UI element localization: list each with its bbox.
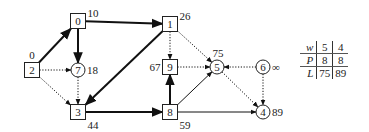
node-id-text: 3 bbox=[75, 106, 81, 118]
node-id-text: 7 bbox=[75, 64, 81, 76]
label-table: w 5 4 P 8 8 L 75 89 bbox=[300, 41, 348, 79]
node-value-label: 75 bbox=[213, 47, 225, 59]
table-cell: 4 bbox=[333, 41, 349, 54]
node-3: 344 bbox=[71, 105, 100, 131]
node-id-text: 4 bbox=[260, 106, 266, 118]
node-6: 6∞ bbox=[256, 60, 280, 74]
table-row-w: w 5 4 bbox=[300, 41, 348, 54]
edge-0-1 bbox=[86, 21, 163, 24]
node-value-label: 0 bbox=[29, 49, 35, 61]
node-value-label: 59 bbox=[180, 119, 192, 131]
table-cell: 5 bbox=[317, 41, 333, 54]
node-0: 010 bbox=[71, 7, 100, 29]
node-8: 859 bbox=[163, 105, 192, 131]
node-value-label: 10 bbox=[88, 7, 100, 19]
node-value-label: 26 bbox=[180, 10, 192, 22]
node-value-label: ∞ bbox=[272, 61, 280, 73]
edge-2-0 bbox=[39, 29, 71, 63]
node-id-text: 5 bbox=[214, 61, 220, 73]
node-id-text: 0 bbox=[75, 15, 81, 27]
table-cell: 89 bbox=[333, 67, 349, 80]
edge-1-5 bbox=[178, 31, 212, 62]
table-row-p: P 8 8 bbox=[300, 54, 348, 67]
table-cell: 8 bbox=[317, 54, 333, 67]
node-2: 20 bbox=[25, 49, 40, 78]
row-header: P bbox=[300, 54, 317, 67]
node-id-text: 6 bbox=[260, 61, 266, 73]
row-header: w bbox=[300, 41, 317, 54]
node-7: 718 bbox=[71, 63, 99, 77]
node-id-text: 8 bbox=[167, 106, 173, 118]
edge-5-4 bbox=[222, 72, 258, 107]
node-id-text: 9 bbox=[167, 61, 173, 73]
node-value-label: 67 bbox=[150, 61, 162, 73]
edge-2-3 bbox=[40, 77, 71, 105]
node-4: 489 bbox=[256, 105, 284, 119]
row-header: L bbox=[300, 67, 317, 80]
node-9: 967 bbox=[150, 60, 178, 75]
node-id-text: 1 bbox=[167, 18, 173, 30]
table-cell: 8 bbox=[333, 54, 349, 67]
node-value-label: 44 bbox=[88, 119, 100, 131]
node-value-label: 18 bbox=[87, 64, 99, 76]
node-1: 126 bbox=[163, 10, 192, 32]
table-cell: 75 bbox=[317, 67, 333, 80]
node-value-label: 89 bbox=[272, 106, 284, 118]
node-5: 575 bbox=[210, 47, 224, 74]
node-id-text: 2 bbox=[29, 64, 35, 76]
edge-8-5 bbox=[178, 72, 212, 105]
graph-diagram: 010126207189675756∞344859489 bbox=[0, 0, 300, 132]
table-row-l: L 75 89 bbox=[300, 67, 348, 80]
